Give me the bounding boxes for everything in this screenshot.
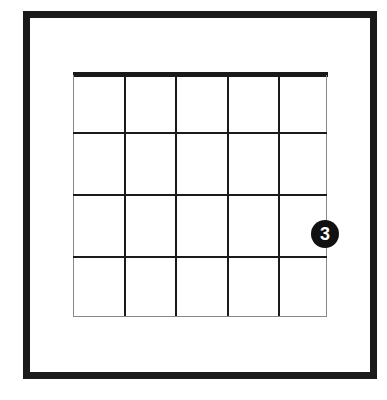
string-2-b [278,75,280,317]
fret-line-2 [73,194,327,196]
string-5-a [124,75,126,317]
fretboard-grid [73,75,327,317]
string-4-d [175,75,177,317]
fret-line-4 [73,316,327,317]
string-3-g [227,75,229,317]
fret-line-3 [73,256,327,258]
finger-dot-string-1-fret-3: 3 [311,220,339,248]
fret-line-1 [73,132,327,134]
finger-number: 3 [320,224,330,244]
string-1-high-e [326,75,327,317]
string-6-low-e [73,75,74,317]
